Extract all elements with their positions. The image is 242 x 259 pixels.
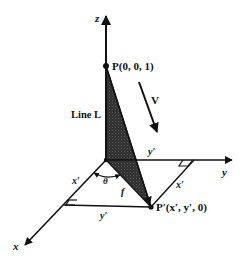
x-prime-right-line (151, 160, 194, 207)
theta-label: θ (103, 176, 108, 186)
x-prime-left-label: x′ (71, 175, 80, 186)
x-prime-right-label: x′ (175, 179, 184, 190)
y-axis-label: y (220, 166, 227, 178)
point-P-prime (148, 204, 153, 209)
point-P (103, 63, 109, 69)
y-prime-bottom-line (64, 205, 151, 207)
point-P-prime-label: P′(x′, y′, 0) (156, 201, 207, 214)
point-P-label: P(0, 0, 1) (112, 60, 154, 73)
vector-V-arrow (139, 82, 157, 132)
point-origin (104, 158, 108, 162)
z-axis-label: z (94, 12, 100, 24)
x-axis-label: x (12, 240, 19, 252)
x-axis (25, 160, 106, 245)
y-prime-bottom-label: y′ (99, 210, 107, 221)
f-label: f (121, 186, 126, 197)
y-prime-top-label: y′ (147, 146, 155, 157)
line-L-label: Line L (71, 109, 101, 120)
vector-V-label: V (151, 94, 159, 106)
projection-diagram: z y x P(0, 0, 1) P′(x′, y′, 0) Line L V … (0, 0, 242, 259)
